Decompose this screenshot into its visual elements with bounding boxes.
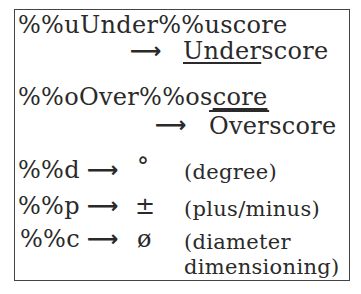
overscore-result-marked: Over <box>209 112 269 140</box>
plusminus-symbol: ± <box>135 193 155 219</box>
arrow-icon: ⟶ <box>87 193 119 219</box>
arrow-icon: ⟶ <box>155 112 187 138</box>
underscore-code: %%uUnder%%uscore <box>18 12 288 38</box>
plusminus-desc: (plus/minus) <box>184 196 320 222</box>
diameter-code: %%c <box>20 226 80 252</box>
overscore-code-plain: %%oOver%%os <box>18 83 213 111</box>
arrow-icon: ⟶ <box>130 38 162 64</box>
overscore-code-marked: core <box>213 83 268 111</box>
diameter-desc-line1: (diameter <box>184 229 291 255</box>
overscore-result-rest: score <box>269 112 336 140</box>
arrow-icon: ⟶ <box>87 226 119 252</box>
degree-code: %%d <box>18 157 80 183</box>
diameter-symbol: ø <box>137 226 152 252</box>
arrow-icon: ⟶ <box>87 157 119 183</box>
plusminus-code: %%p <box>18 193 80 219</box>
overscore-code: %%oOver%%oscore <box>18 84 267 110</box>
underscore-result: Underscore <box>183 38 329 64</box>
degree-desc: (degree) <box>184 159 277 185</box>
underscore-result-marked: Under <box>183 37 261 65</box>
overscore-result: Overscore <box>209 113 337 139</box>
underscore-result-rest: score <box>261 37 328 65</box>
diameter-desc-line2: dimensioning) <box>184 254 339 280</box>
degree-symbol: ° <box>137 154 149 180</box>
